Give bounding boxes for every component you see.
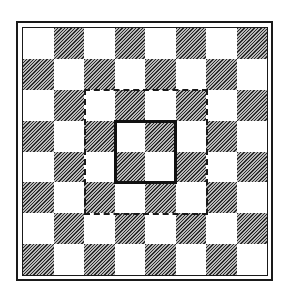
board-square xyxy=(145,182,176,213)
board-square xyxy=(176,59,207,90)
board-square xyxy=(54,244,85,275)
board-square xyxy=(84,213,115,244)
board-square xyxy=(176,244,207,275)
board-square xyxy=(145,121,176,152)
board-square xyxy=(237,182,268,213)
board-square xyxy=(206,90,237,121)
board-square xyxy=(54,121,85,152)
board-square xyxy=(23,213,54,244)
board-square xyxy=(176,90,207,121)
board-square xyxy=(54,152,85,183)
board-square xyxy=(115,90,146,121)
board-square xyxy=(23,59,54,90)
board-square xyxy=(206,182,237,213)
board-square xyxy=(115,121,146,152)
board-square xyxy=(206,28,237,59)
board-square xyxy=(23,90,54,121)
board-square xyxy=(145,28,176,59)
chessboard xyxy=(22,27,268,276)
board-square xyxy=(84,182,115,213)
board-square xyxy=(115,244,146,275)
board-square xyxy=(54,182,85,213)
board-square xyxy=(115,213,146,244)
board-square xyxy=(237,121,268,152)
board-square xyxy=(206,121,237,152)
board-square xyxy=(23,244,54,275)
board-square xyxy=(23,28,54,59)
board-square xyxy=(206,59,237,90)
board-square xyxy=(84,28,115,59)
board-square xyxy=(176,182,207,213)
board-square xyxy=(54,28,85,59)
board-square xyxy=(176,121,207,152)
board-square xyxy=(145,59,176,90)
board-square xyxy=(23,152,54,183)
board-square xyxy=(176,152,207,183)
board-square xyxy=(84,244,115,275)
board-square xyxy=(84,90,115,121)
board-square xyxy=(206,152,237,183)
board-square xyxy=(115,59,146,90)
board-square xyxy=(115,182,146,213)
board-square xyxy=(206,244,237,275)
board-square xyxy=(84,59,115,90)
board-square xyxy=(84,121,115,152)
board-square xyxy=(84,152,115,183)
board-square xyxy=(145,152,176,183)
board-square xyxy=(23,121,54,152)
board-square xyxy=(115,28,146,59)
board-square xyxy=(23,182,54,213)
board-square xyxy=(176,28,207,59)
board-square xyxy=(115,152,146,183)
board-square xyxy=(237,213,268,244)
board-square xyxy=(54,90,85,121)
board-square xyxy=(237,90,268,121)
board-square xyxy=(237,244,268,275)
board-square xyxy=(145,244,176,275)
board-square xyxy=(145,213,176,244)
board-square xyxy=(237,28,268,59)
board-square xyxy=(54,213,85,244)
board-square xyxy=(206,213,237,244)
board-square xyxy=(237,152,268,183)
board-square xyxy=(176,213,207,244)
board-square xyxy=(145,90,176,121)
board-square xyxy=(237,59,268,90)
board-square xyxy=(54,59,85,90)
